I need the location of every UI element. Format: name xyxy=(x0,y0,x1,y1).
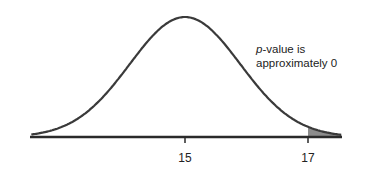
tick-label-15: 15 xyxy=(178,151,191,165)
annotation-line1: -value is xyxy=(262,43,305,55)
p-value-annotation: p-value is approximately 0 xyxy=(256,42,337,70)
normal-distribution-curve xyxy=(31,17,341,135)
tick-label-17: 17 xyxy=(301,151,314,165)
annotation-line2: approximately 0 xyxy=(256,56,337,70)
